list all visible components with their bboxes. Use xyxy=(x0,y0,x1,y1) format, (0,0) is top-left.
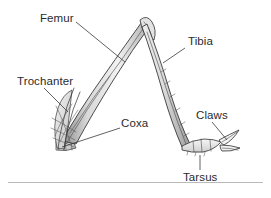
claws-segment xyxy=(219,130,240,151)
label-coxa: Coxa xyxy=(121,117,149,129)
label-claws: Claws xyxy=(196,109,228,121)
claws-leader xyxy=(212,122,227,140)
label-tarsus: Tarsus xyxy=(183,171,218,183)
femur-leader xyxy=(76,22,125,62)
diagram-canvas: Femur Tibia Trochanter Coxa Claws Tarsus xyxy=(0,0,271,198)
label-femur: Femur xyxy=(40,12,74,24)
label-trochanter: Trochanter xyxy=(17,75,73,87)
tibia-leader xyxy=(163,48,185,63)
tibia-segment xyxy=(142,24,190,147)
insect-leg-diagram: Femur Tibia Trochanter Coxa Claws Tarsus xyxy=(0,0,271,198)
label-tibia: Tibia xyxy=(188,35,214,47)
